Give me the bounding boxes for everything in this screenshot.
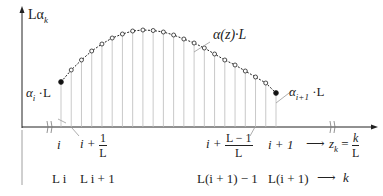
z-axis-label: zk = kL: [329, 132, 359, 159]
k-axis-label: k: [343, 171, 349, 184]
sample-point: [120, 32, 124, 36]
left-label-leader: [58, 119, 66, 123]
k-tick-L-i-plus-1-minus-1: L(i + 1) − 1: [197, 172, 258, 185]
k-tick-Li: L i: [52, 172, 66, 185]
sample-point: [100, 42, 104, 46]
y-axis-arrow-icon: [20, 6, 25, 13]
z-arrow-icon: ⟶: [306, 137, 325, 150]
sample-point: [182, 37, 186, 41]
sample-point: [223, 58, 227, 62]
sample-stems: [61, 30, 276, 127]
right-point-label: αi+1 ·L: [289, 85, 324, 102]
sample-point: [141, 28, 145, 32]
sample-point: [213, 52, 217, 56]
z-tick-i: i: [57, 138, 61, 151]
tick-leader-1: [72, 128, 79, 136]
sample-point: [172, 33, 176, 37]
z-tick-i-plus-1: i + 1: [268, 138, 293, 151]
sample-point: [161, 30, 165, 34]
sample-point: [243, 69, 247, 73]
sample-point: [69, 68, 73, 72]
sample-point: [254, 75, 258, 79]
k-arrow-icon: ⟶: [317, 171, 336, 184]
endpoint-dot: [59, 80, 64, 85]
sample-point: [90, 49, 94, 53]
k-tick-L-i-plus-1: L(i + 1): [268, 172, 309, 185]
k-tick-Li-plus-1: L i + 1: [80, 172, 115, 185]
sample-point: [233, 63, 237, 67]
z-tick-i-plus-1-over-L: i + 1L: [80, 132, 107, 159]
curve-label: α(z)·L: [213, 28, 246, 42]
sample-point: [131, 29, 135, 33]
sample-point: [110, 36, 114, 40]
left-point-label: αi ·L: [26, 86, 51, 103]
sample-point: [264, 81, 268, 85]
sample-point: [151, 29, 155, 33]
z-tick-i-plus-L-minus-1-over-L: i + L − 1L: [206, 132, 253, 159]
endpoint-dot: [274, 91, 279, 96]
x-axis-arrow-icon: [371, 125, 378, 130]
diagram-canvas: [0, 0, 383, 196]
sample-point: [79, 58, 83, 62]
y-axis-label: Lαk: [28, 8, 48, 25]
sample-point: [192, 41, 196, 45]
